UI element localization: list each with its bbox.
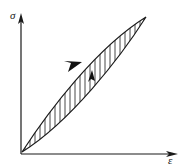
stress-strain-hysteresis-figure: σ ε xyxy=(0,0,188,168)
y-axis-label: σ xyxy=(10,10,15,21)
loop-hatching xyxy=(25,0,144,168)
axes-group xyxy=(18,13,178,157)
inner-hatch-direction-arrow-icon xyxy=(88,70,95,82)
hysteresis-loop-outline xyxy=(22,17,146,152)
figure-canvas xyxy=(0,0,188,168)
upper-branch-direction-arrow-icon xyxy=(64,61,82,72)
x-axis-label: ε xyxy=(168,155,172,166)
